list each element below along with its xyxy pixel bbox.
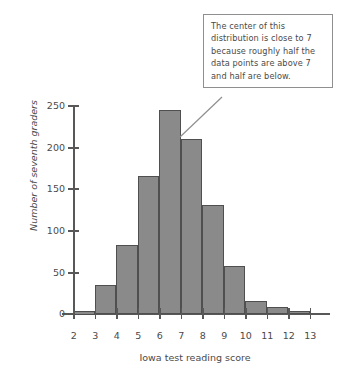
- histogram-bar-11-12: [267, 307, 289, 314]
- histogram-bar-5-6: [138, 176, 160, 314]
- histogram-bar-12-13: [288, 311, 310, 314]
- y-tick-mark-250: [68, 105, 79, 107]
- x-tick-label-8: 8: [194, 330, 212, 341]
- x-tick-mark-6: [159, 308, 161, 319]
- x-tick-mark-4: [116, 308, 118, 319]
- x-tick-mark-2: [73, 308, 75, 319]
- histogram-bar-7-8: [181, 139, 203, 314]
- x-tick-mark-3: [95, 308, 97, 319]
- x-tick-mark-11: [267, 308, 269, 319]
- y-tick-label-0: 0: [33, 308, 65, 319]
- y-tick-mark-50: [68, 272, 79, 274]
- x-tick-label-5: 5: [129, 330, 147, 341]
- x-tick-mark-9: [224, 308, 226, 319]
- x-tick-label-12: 12: [280, 330, 298, 341]
- x-tick-label-10: 10: [237, 330, 255, 341]
- x-tick-label-3: 3: [86, 330, 104, 341]
- histogram-bar-2-3: [73, 311, 95, 315]
- x-axis-title: Iowa test reading score: [60, 352, 330, 363]
- x-tick-mark-7: [181, 308, 183, 319]
- x-tick-mark-12: [288, 308, 290, 319]
- x-tick-label-9: 9: [215, 330, 233, 341]
- histogram-bar-9-10: [224, 266, 246, 314]
- histogram-bar-6-7: [159, 110, 181, 314]
- y-tick-mark-150: [68, 188, 79, 190]
- x-tick-mark-5: [138, 308, 140, 319]
- callout-text: The center of this distribution is close…: [211, 21, 315, 81]
- x-tick-label-6: 6: [151, 330, 169, 341]
- histogram-bar-8-9: [202, 205, 224, 314]
- x-tick-mark-10: [245, 308, 247, 319]
- histogram-bar-3-4: [95, 285, 117, 314]
- center-annotation-callout: The center of this distribution is close…: [203, 14, 333, 88]
- x-tick-mark-8: [202, 308, 204, 319]
- x-tick-label-7: 7: [172, 330, 190, 341]
- y-axis-line: [73, 105, 75, 314]
- x-tick-label-4: 4: [108, 330, 126, 341]
- y-tick-mark-100: [68, 230, 79, 232]
- x-tick-label-2: 2: [65, 330, 83, 341]
- x-tick-label-11: 11: [258, 330, 276, 341]
- y-axis-title: Number of seventh graders: [28, 71, 39, 261]
- histogram-bar-10-11: [245, 301, 267, 315]
- y-tick-mark-200: [68, 147, 79, 149]
- x-tick-label-13: 13: [301, 330, 319, 341]
- histogram-bar-4-5: [116, 245, 138, 314]
- histogram-chart: 250 200 150 100 50 0 2 3 4 5 6 7 8 9 10 …: [0, 0, 342, 375]
- y-tick-label-50: 50: [33, 267, 65, 278]
- x-tick-mark-13: [310, 308, 312, 319]
